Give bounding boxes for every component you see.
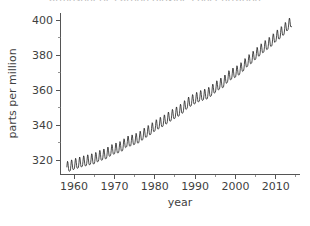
- x-tick-label-1990: 1990: [181, 180, 209, 193]
- y-tick-label-360: 360: [32, 84, 53, 97]
- chart-figure: atmospheric carbon dioxide concentration…: [0, 0, 310, 226]
- axis-spines: [61, 13, 301, 175]
- x-tick-label-2010: 2010: [262, 180, 290, 193]
- x-axis-title: year: [168, 196, 193, 209]
- y-tick-label-380: 380: [32, 49, 53, 62]
- data-series-0: [67, 18, 292, 171]
- y-axis-title: parts per million: [6, 48, 19, 138]
- chart-data-series: [67, 18, 292, 171]
- x-tick-label-2000: 2000: [221, 180, 249, 193]
- y-tick-label-320: 320: [32, 154, 53, 167]
- chart-labels: 320340360380400196019701980199020002010y…: [6, 14, 290, 209]
- x-tick-label-1980: 1980: [141, 180, 169, 193]
- y-tick-label-340: 340: [32, 119, 53, 132]
- co2-line-chart: 320340360380400196019701980199020002010y…: [0, 0, 310, 226]
- chart-axes: [56, 13, 300, 179]
- x-tick-label-1960: 1960: [60, 180, 88, 193]
- y-tick-label-400: 400: [32, 14, 53, 27]
- x-tick-label-1970: 1970: [100, 180, 128, 193]
